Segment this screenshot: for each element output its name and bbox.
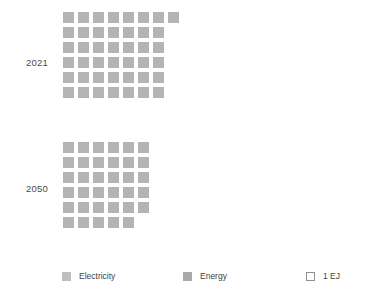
- waffle-cell: [153, 57, 164, 68]
- waffle-cell: [138, 72, 149, 83]
- waffle-row: [63, 172, 353, 183]
- waffle-cell: [108, 202, 119, 213]
- waffle-cell: [78, 217, 89, 228]
- waffle-cell: [123, 217, 134, 228]
- waffle-cell: [93, 57, 104, 68]
- waffle-cell: [153, 27, 164, 38]
- legend-swatch-energy-icon: [183, 272, 192, 281]
- waffle-cell: [108, 72, 119, 83]
- waffle-cell: [138, 202, 149, 213]
- waffle-cell: [123, 172, 134, 183]
- waffle-cell: [138, 172, 149, 183]
- waffle-cell: [78, 42, 89, 53]
- waffle-row: [63, 142, 353, 153]
- waffle-cell: [93, 157, 104, 168]
- waffle-cell: [93, 72, 104, 83]
- waffle-cell: [78, 172, 89, 183]
- waffle-row: [63, 42, 353, 53]
- legend-swatch-electricity-icon: [62, 272, 71, 281]
- legend-label-electricity: Electricity: [79, 271, 115, 281]
- waffle-cell: [138, 57, 149, 68]
- waffle-cell: [63, 42, 74, 53]
- waffle-cell: [138, 187, 149, 198]
- waffle-cell: [123, 42, 134, 53]
- waffle-cell: [93, 202, 104, 213]
- waffle-cell: [93, 172, 104, 183]
- waffle-cell: [138, 27, 149, 38]
- waffle-row: [63, 57, 353, 68]
- category-label-2050: 2050: [0, 183, 48, 195]
- waffle-cell: [108, 27, 119, 38]
- waffle-row: [63, 187, 353, 198]
- waffle-cell: [108, 57, 119, 68]
- waffle-grid-2050: [63, 142, 353, 228]
- waffle-cell: [78, 87, 89, 98]
- waffle-cell: [123, 202, 134, 213]
- waffle-cell: [78, 142, 89, 153]
- waffle-cell: [93, 12, 104, 23]
- waffle-cell: [108, 12, 119, 23]
- waffle-cell: [63, 217, 74, 228]
- waffle-chart: 2021 2050 Electricity Energy 1 EJ: [0, 0, 368, 303]
- waffle-cell: [138, 157, 149, 168]
- waffle-cell: [138, 12, 149, 23]
- waffle-row: [63, 217, 353, 228]
- waffle-cell: [93, 217, 104, 228]
- waffle-cell: [108, 142, 119, 153]
- waffle-cell: [123, 87, 134, 98]
- waffle-cell: [78, 187, 89, 198]
- waffle-cell: [63, 172, 74, 183]
- legend-label-energy: Energy: [200, 271, 227, 281]
- waffle-cell: [93, 27, 104, 38]
- waffle-cell: [153, 72, 164, 83]
- waffle-cell: [63, 12, 74, 23]
- chart-legend: Electricity Energy 1 EJ: [0, 268, 368, 290]
- waffle-row: [63, 27, 353, 38]
- waffle-cell: [123, 157, 134, 168]
- legend-item-electricity[interactable]: Electricity: [62, 268, 115, 284]
- waffle-cell: [108, 187, 119, 198]
- waffle-cell: [123, 27, 134, 38]
- waffle-cell: [168, 12, 179, 23]
- waffle-cell: [63, 87, 74, 98]
- waffle-cell: [93, 187, 104, 198]
- waffle-cell: [78, 27, 89, 38]
- waffle-cell: [63, 157, 74, 168]
- waffle-cell: [108, 157, 119, 168]
- waffle-cell: [108, 87, 119, 98]
- waffle-cell: [138, 87, 149, 98]
- waffle-cell: [63, 142, 74, 153]
- waffle-cell: [93, 142, 104, 153]
- legend-label-unit: 1 EJ: [323, 271, 340, 281]
- waffle-cell: [138, 142, 149, 153]
- waffle-cell: [63, 202, 74, 213]
- waffle-cell: [108, 217, 119, 228]
- waffle-row: [63, 72, 353, 83]
- waffle-cell: [123, 187, 134, 198]
- legend-item-energy[interactable]: Energy: [183, 268, 227, 284]
- waffle-cell: [63, 27, 74, 38]
- waffle-row: [63, 87, 353, 98]
- waffle-cell: [123, 12, 134, 23]
- waffle-cell: [138, 42, 149, 53]
- waffle-cell: [78, 202, 89, 213]
- waffle-row: [63, 12, 353, 23]
- waffle-row: [63, 202, 353, 213]
- waffle-cell: [123, 142, 134, 153]
- waffle-cell: [78, 72, 89, 83]
- waffle-cell: [153, 42, 164, 53]
- category-label-2021: 2021: [0, 57, 48, 69]
- waffle-cell: [123, 72, 134, 83]
- waffle-cell: [63, 57, 74, 68]
- waffle-cell: [108, 172, 119, 183]
- legend-swatch-unit-outline-icon: [306, 272, 315, 281]
- waffle-cell: [63, 187, 74, 198]
- waffle-cell: [63, 72, 74, 83]
- waffle-cell: [153, 87, 164, 98]
- waffle-grid-2021: [63, 12, 353, 98]
- legend-item-unit[interactable]: 1 EJ: [306, 268, 340, 284]
- waffle-cell: [108, 42, 119, 53]
- waffle-cell: [78, 157, 89, 168]
- waffle-cell: [153, 12, 164, 23]
- waffle-cell: [93, 87, 104, 98]
